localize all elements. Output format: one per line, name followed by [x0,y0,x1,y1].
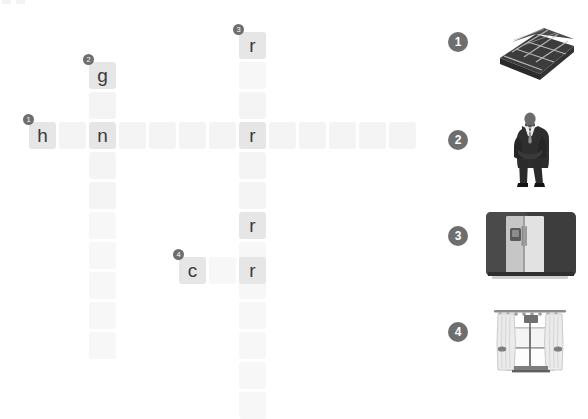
crossword-cell[interactable]: c [179,257,206,284]
clue-number-badge-3: 3 [233,24,244,35]
crossword-cell[interactable] [89,182,116,209]
crossword-cell[interactable] [239,92,266,119]
crossword-cell[interactable]: h [29,122,56,149]
crossword-cell[interactable]: n [89,122,116,149]
cell-letter: r [239,32,266,59]
crossword-cell[interactable] [89,302,116,329]
crossword-cell[interactable] [269,122,296,149]
clue-number-badge-2: 2 [83,54,94,65]
crossword-cell[interactable] [89,92,116,119]
cell-letter: h [29,122,56,149]
picture-clue-list: 1 [440,0,588,411]
crossword-cell[interactable] [89,332,116,359]
crossword-cell[interactable] [89,152,116,179]
crossword-cell[interactable] [209,122,236,149]
crossword-cell[interactable] [239,62,266,89]
crossword-cell[interactable]: g [89,62,116,89]
crossword-cell[interactable] [329,122,356,149]
crossword-cell[interactable]: r [239,122,266,149]
crossword-cell[interactable] [239,182,266,209]
man-in-suit-icon [478,110,582,190]
crossword-cell[interactable] [179,122,206,149]
crossword-cell[interactable] [119,122,146,149]
crossword-cell[interactable] [299,122,326,149]
curtained-window-icon [478,302,582,382]
crossword-cell[interactable] [209,257,236,284]
crossword-cell[interactable] [239,152,266,179]
cell-letter: c [179,257,206,284]
folded-checkered-cloth-icon [478,12,582,92]
picture-clue-number-2: 2 [448,130,468,150]
clue-number-badge-1: 1 [23,114,34,125]
refrigerator-icon [478,206,582,286]
picture-clue-4[interactable]: 4 [440,296,588,388]
crossword-cell[interactable] [89,242,116,269]
cell-letter: g [89,62,116,89]
cell-letter: r [239,122,266,149]
crossword-cell[interactable]: r [239,257,266,284]
crossword-cell[interactable]: r [239,212,266,239]
crossword-cell[interactable] [89,272,116,299]
crossword-cell[interactable] [389,122,416,149]
picture-clue-number-3: 3 [448,226,468,246]
clue-number-badge-4: 4 [173,249,184,260]
cell-letter: r [239,257,266,284]
crossword-grid[interactable]: hnr1g2rr3cr4 [0,0,440,411]
crossword-cell[interactable] [239,302,266,329]
cell-letter: n [89,122,116,149]
crossword-cell[interactable] [149,122,176,149]
crossword-cell[interactable] [359,122,386,149]
crossword-cell[interactable] [239,362,266,389]
picture-clue-3[interactable]: 3 [440,200,588,292]
picture-clue-number-4: 4 [448,322,468,342]
picture-clue-1[interactable]: 1 [440,6,588,98]
crossword-cell[interactable]: r [239,32,266,59]
crossword-cell[interactable] [59,122,86,149]
crossword-cell[interactable] [239,332,266,359]
crossword-cell[interactable] [239,392,266,419]
picture-clue-number-1: 1 [448,32,468,52]
crossword-cell[interactable] [89,212,116,239]
cell-letter: r [239,212,266,239]
picture-clue-2[interactable]: 2 [440,104,588,196]
